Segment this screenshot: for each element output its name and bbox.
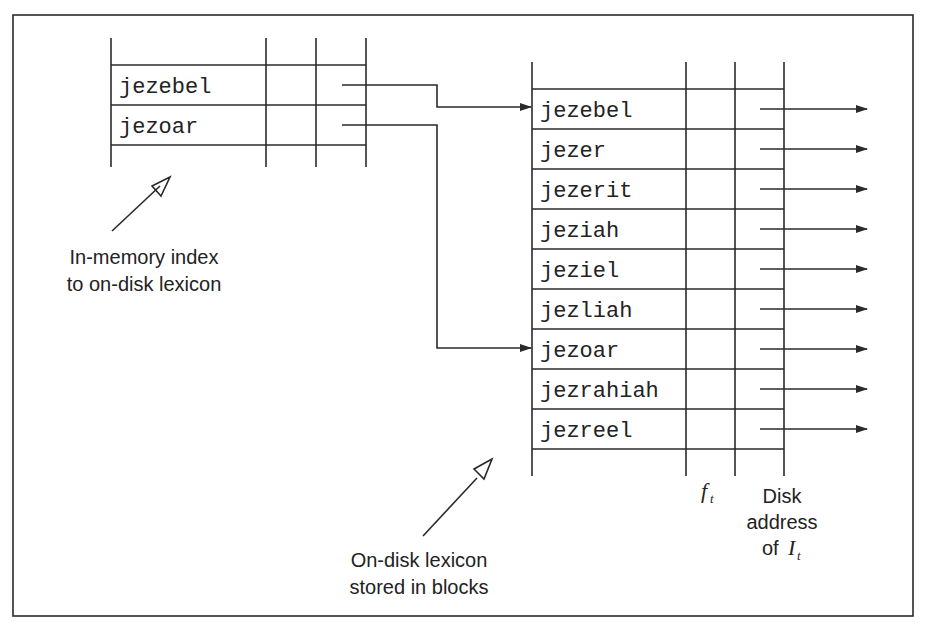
on-disk-lexicon-table: jezebel jezer jezerit jeziah jeziel jezl… bbox=[532, 62, 784, 476]
frequency-column-label: f t bbox=[701, 478, 714, 506]
index-entry: jezebel bbox=[119, 75, 211, 100]
index-entry: jezoar bbox=[119, 115, 198, 140]
caption-line: On-disk lexicon bbox=[351, 549, 488, 571]
lexicon-entry: jezerit bbox=[540, 179, 632, 204]
lexicon-entry: jezreel bbox=[540, 419, 632, 444]
lexicon-entry: jezliah bbox=[540, 299, 632, 324]
hollow-arrowhead-icon bbox=[474, 459, 492, 479]
lexicon-entry: jezoar bbox=[540, 339, 619, 364]
hollow-arrowhead-icon bbox=[152, 177, 170, 196]
svg-text:t: t bbox=[797, 548, 801, 563]
in-memory-index-caption: In-memory index to on-disk lexicon bbox=[67, 177, 222, 295]
lexicon-entry: jezrahiah bbox=[540, 379, 659, 404]
lexicon-entry: jezer bbox=[540, 139, 606, 164]
disk-address-column-label: Disk address of I t bbox=[746, 485, 817, 563]
pointer-arrow-jezebel bbox=[342, 85, 531, 107]
caption-line: to on-disk lexicon bbox=[67, 273, 222, 295]
lexicon-entry: jeziel bbox=[540, 259, 619, 284]
svg-text:of: of bbox=[762, 537, 779, 559]
svg-text:I: I bbox=[787, 535, 797, 560]
lexicon-index-diagram: jezebel jezoar jezebel jezer jezerit jez… bbox=[0, 0, 933, 627]
svg-text:t: t bbox=[710, 491, 714, 506]
in-memory-index-table: jezebel jezoar bbox=[111, 38, 366, 167]
lexicon-entry: jezebel bbox=[540, 99, 632, 124]
pointer-arrow-jezoar bbox=[342, 125, 531, 348]
svg-text:Disk: Disk bbox=[763, 485, 803, 507]
svg-text:address: address bbox=[746, 511, 817, 533]
index-pointers bbox=[342, 85, 531, 348]
callout-arrow-icon bbox=[423, 478, 477, 536]
disk-address-arrows bbox=[760, 109, 867, 429]
svg-text:f: f bbox=[701, 478, 710, 503]
callout-arrow-icon bbox=[112, 186, 160, 231]
on-disk-lexicon-caption: On-disk lexicon stored in blocks bbox=[350, 459, 492, 598]
caption-line: stored in blocks bbox=[350, 576, 489, 598]
caption-line: In-memory index bbox=[70, 246, 219, 268]
lexicon-entry: jeziah bbox=[540, 219, 619, 244]
